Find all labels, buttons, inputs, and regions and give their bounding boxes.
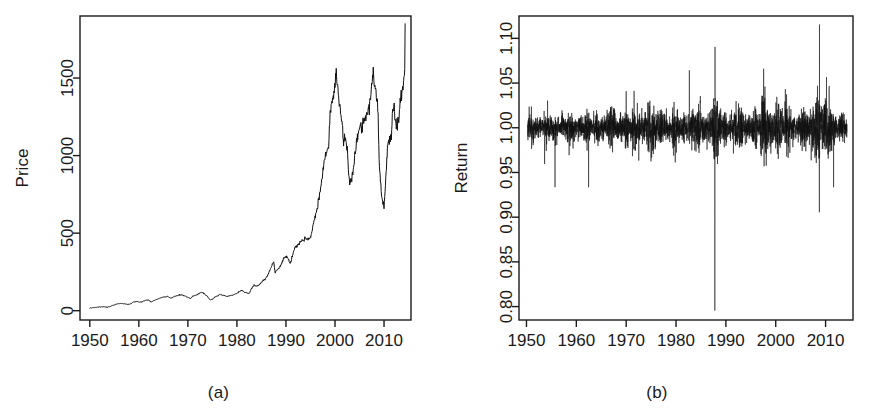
figure-container: 1950196019701980199020002010050010001500…	[0, 0, 877, 409]
x-tick-label: 1950	[508, 331, 546, 350]
x-tick-label: 2000	[757, 331, 795, 350]
panel-a-caption: (a)	[0, 383, 437, 403]
y-tick-label: 1.00	[497, 111, 516, 144]
panel-b-caption: (b)	[437, 383, 877, 403]
x-tick-label: 2000	[316, 331, 354, 350]
return-chart-svg: 19501960197019801990200020100.800.850.90…	[437, 0, 877, 355]
x-tick-label: 1980	[218, 331, 256, 350]
x-tick-label: 1970	[169, 331, 207, 350]
y-tick-label: 1000	[58, 137, 77, 175]
return-series-line	[527, 24, 847, 310]
x-tick-label: 2010	[807, 331, 845, 350]
y-tick-label: 1.10	[497, 22, 516, 55]
y-tick-label: 1500	[58, 59, 77, 97]
chart-panel-return: 19501960197019801990200020100.800.850.90…	[437, 0, 877, 409]
x-tick-label: 1970	[607, 331, 645, 350]
chart-panel-price: 1950196019701980199020002010050010001500…	[0, 0, 437, 409]
y-axis-title: Price	[13, 149, 32, 188]
y-tick-label: 0	[58, 306, 77, 315]
x-tick-label: 1960	[120, 331, 158, 350]
price-chart-svg: 1950196019701980199020002010050010001500…	[0, 0, 437, 355]
y-tick-label: 500	[58, 219, 77, 247]
y-tick-label: 0.85	[497, 245, 516, 278]
y-tick-label: 0.90	[497, 201, 516, 234]
x-tick-label: 2010	[365, 331, 403, 350]
y-tick-label: 1.05	[497, 67, 516, 100]
x-tick-label: 1960	[557, 331, 595, 350]
y-tick-label: 0.95	[497, 156, 516, 189]
x-tick-label: 1950	[71, 331, 109, 350]
y-axis-title: Return	[452, 142, 471, 193]
x-tick-label: 1990	[267, 331, 305, 350]
y-tick-label: 0.80	[497, 290, 516, 323]
x-tick-label: 1980	[657, 331, 695, 350]
price-series-line	[90, 24, 405, 308]
x-tick-label: 1990	[707, 331, 745, 350]
